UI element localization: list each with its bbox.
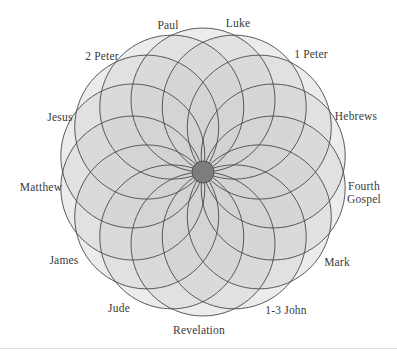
baseline-rule: [0, 348, 397, 349]
rosette-figure: PaulLuke2 Peter1 PeterJesusHebrewsMatthe…: [0, 0, 397, 351]
rosette-circle-fill: [100, 35, 244, 179]
rosette-diagram: [0, 0, 397, 351]
center-hub: [192, 161, 214, 183]
